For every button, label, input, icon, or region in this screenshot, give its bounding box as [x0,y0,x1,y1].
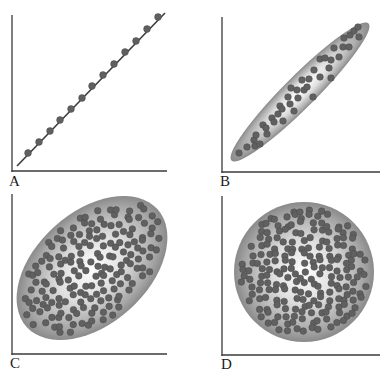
data-point [289,319,296,326]
data-point [146,268,153,275]
data-point [106,303,113,310]
data-point [247,276,254,283]
data-point [328,75,335,82]
data-point [281,266,288,273]
data-point [297,209,304,216]
data-point [25,150,32,157]
data-point [44,305,51,312]
data-point [348,263,355,270]
data-point [258,314,265,321]
data-point [282,257,289,264]
data-point [56,302,63,309]
data-point [310,220,317,227]
data-point [307,253,314,260]
data-point [30,321,37,328]
data-point [264,272,271,279]
data-point [341,35,348,42]
data-point [127,251,134,258]
data-point [356,34,363,41]
data-point [308,310,315,317]
data-point [256,295,263,302]
data-point [66,314,73,321]
data-point [71,283,78,290]
data-point [236,150,243,157]
panel-d-no-correlation [222,196,381,356]
data-point [154,218,161,225]
data-point [253,132,260,139]
data-point [276,327,283,334]
data-point [357,251,364,258]
data-point [57,279,64,286]
data-point [108,222,115,229]
data-point [274,302,281,309]
data-point [301,279,308,286]
data-point [324,211,331,218]
data-point [272,286,279,293]
data-point [100,316,107,323]
data-point [33,279,40,286]
data-point [256,306,263,313]
data-point [116,293,123,300]
data-point [76,231,83,238]
data-point [349,235,356,242]
data-point [88,318,95,325]
data-point [340,44,347,51]
data-point [344,223,351,230]
data-point [139,237,146,244]
data-point [264,259,271,266]
data-point [94,207,101,214]
data-point [39,288,46,295]
data-point [315,302,322,309]
data-point [139,272,146,279]
data-point [26,299,33,306]
data-point [238,279,245,286]
data-point [295,95,302,102]
data-point [126,287,133,294]
data-point [323,309,330,316]
data-point [94,227,101,234]
data-point [153,247,160,254]
data-point [326,245,333,252]
data-point [50,287,57,294]
data-point [274,234,281,241]
data-point [306,76,313,83]
data-point [126,216,133,223]
data-point [254,260,261,267]
data-point [271,119,278,126]
data-point [284,328,291,335]
data-point [36,139,43,146]
data-point [46,264,53,271]
data-point [288,265,295,272]
data-point [95,263,102,270]
data-point [75,273,82,280]
data-point [302,269,309,276]
data-point [77,250,84,257]
data-point [288,85,295,92]
data-point [88,282,95,289]
data-point [87,242,94,249]
data-point [135,214,142,221]
data-point [326,65,333,72]
data-point [281,298,288,305]
data-point [112,231,119,238]
data-point [272,250,279,257]
data-point [88,259,95,266]
data-point [331,45,338,52]
data-point [129,226,136,233]
data-point [284,214,291,221]
data-point [301,260,308,267]
data-point [340,234,347,241]
data-point [323,316,330,323]
data-point [115,304,122,311]
data-point [87,295,94,302]
data-point [334,268,341,275]
data-point [299,77,306,84]
data-point [259,265,266,272]
data-point [306,211,313,218]
data-point [311,227,318,234]
data-point [100,72,107,79]
data-point [68,259,75,266]
data-point [326,264,333,271]
data-point [315,283,322,290]
data-point [310,94,317,101]
